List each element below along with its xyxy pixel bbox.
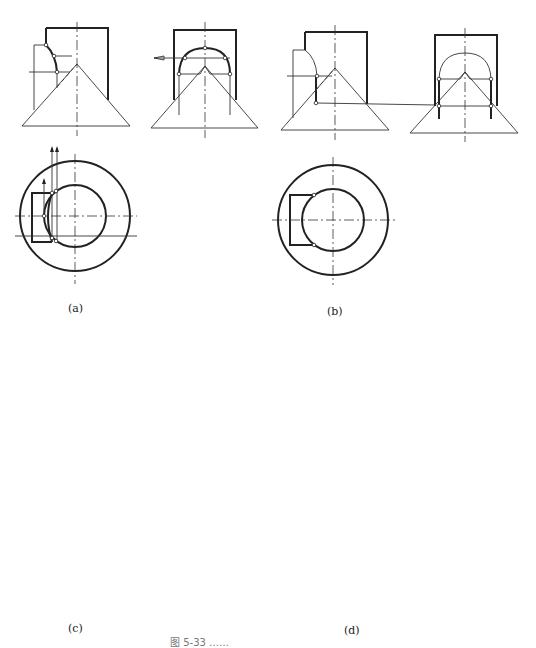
panel-d-label: (d) (344, 624, 360, 637)
panel-a-label: (a) (68, 302, 83, 315)
panel-b-label: (b) (327, 305, 343, 318)
panel-b-side-view (410, 28, 518, 142)
panel-b (272, 25, 518, 285)
panel-a-front-view (22, 22, 130, 136)
panel-a (15, 22, 258, 284)
figure-caption: 图 5-33 …… (170, 634, 229, 648)
panel-b-front-view (281, 25, 436, 140)
panel-a-side-view (151, 22, 258, 138)
engineering-drawing: .thick{stroke:#222;stroke-width:2;fill:n… (0, 0, 536, 648)
panel-a-top-view (15, 146, 137, 284)
panel-c-label: (c) (68, 622, 83, 635)
panel-b-top-view (272, 157, 397, 285)
